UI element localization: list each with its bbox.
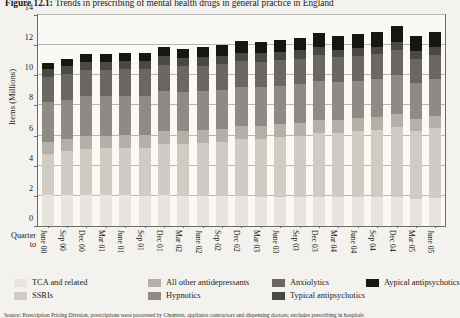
bar-segment-hypnotics bbox=[313, 81, 325, 120]
bar-segment-aypical-antipsychotics bbox=[371, 32, 383, 47]
bar-segment-hypnotics bbox=[42, 102, 54, 141]
bar-segment-typical-antipsychotics bbox=[371, 47, 383, 55]
legend-item-ssris[interactable]: SSRIs bbox=[14, 290, 53, 301]
bar-segment-hypnotics bbox=[255, 87, 267, 125]
bar-segment-ssris bbox=[197, 143, 209, 196]
bar-segment-aypical-antipsychotics bbox=[235, 41, 247, 52]
bar-segment-typical-antipsychotics bbox=[100, 62, 112, 70]
bar-segment-tca-and-related bbox=[80, 195, 92, 226]
bar-segment-anxiolytics bbox=[119, 69, 131, 95]
bar-segment-all-other-antidepressants bbox=[100, 136, 112, 149]
bar-sep-04[interactable] bbox=[371, 15, 383, 226]
bar-segment-hypnotics bbox=[391, 75, 403, 113]
bar-sep-01[interactable] bbox=[139, 15, 151, 226]
bar-segment-typical-antipsychotics bbox=[410, 51, 422, 59]
x-tick-label: Dec 04 bbox=[388, 230, 397, 252]
x-tick-label: Sep 01 bbox=[136, 230, 145, 251]
bar-segment-anxiolytics bbox=[313, 55, 325, 81]
x-tick-june-02: June 02 bbox=[193, 228, 212, 276]
x-tick-label: Mar 05 bbox=[407, 230, 416, 252]
bar-segment-all-other-antidepressants bbox=[139, 135, 151, 148]
bar-sep-03[interactable] bbox=[294, 15, 306, 226]
x-tick-mark bbox=[86, 226, 87, 228]
legend-swatch bbox=[148, 279, 161, 287]
legend-item-typical-antipsychotics[interactable]: Typical antipsychotics bbox=[272, 290, 365, 301]
bar-dec-02[interactable] bbox=[235, 15, 247, 226]
bar-june-00[interactable] bbox=[42, 15, 54, 226]
bar-segment-typical-antipsychotics bbox=[119, 61, 131, 69]
x-axis-title: Quarterto bbox=[0, 231, 36, 249]
x-tick-label: Mar 01 bbox=[97, 230, 106, 252]
bar-segment-hypnotics bbox=[429, 79, 441, 116]
x-tick-label: Sep 00 bbox=[58, 230, 67, 251]
bar-segment-aypical-antipsychotics bbox=[100, 54, 112, 62]
bar-segment-aypical-antipsychotics bbox=[80, 54, 92, 62]
bar-segment-anxiolytics bbox=[61, 74, 73, 100]
bar-segment-hypnotics bbox=[100, 96, 112, 135]
legend-item-anxiolytics[interactable]: Anxiolytics bbox=[272, 277, 329, 288]
bar-segment-tca-and-related bbox=[197, 196, 209, 226]
legend-item-all-other-antidepressants[interactable]: All other antidepressants bbox=[148, 277, 249, 288]
bar-sep-02[interactable] bbox=[216, 15, 228, 226]
bar-segment-anxiolytics bbox=[255, 62, 267, 88]
bar-segment-all-other-antidepressants bbox=[332, 120, 344, 133]
legend-label: Hypnotics bbox=[166, 291, 200, 300]
bar-mar-03[interactable] bbox=[255, 15, 267, 226]
legend-item-aypical-antipsychotics[interactable]: Aypical antipsychotics bbox=[366, 277, 460, 288]
bar-segment-anxiolytics bbox=[177, 66, 189, 92]
bar-segment-ssris bbox=[119, 148, 131, 195]
bar-june-05[interactable] bbox=[429, 15, 441, 226]
bar-june-02[interactable] bbox=[197, 15, 209, 226]
bar-june-03[interactable] bbox=[274, 15, 286, 226]
bar-sep-00[interactable] bbox=[61, 15, 73, 226]
legend-label: TCA and related bbox=[32, 278, 87, 287]
bar-segment-typical-antipsychotics bbox=[80, 62, 92, 70]
x-tick-mark bbox=[435, 226, 436, 228]
bar-segment-all-other-antidepressants bbox=[410, 119, 422, 131]
bar-mar-05[interactable] bbox=[410, 15, 422, 226]
bar-segment-tca-and-related bbox=[139, 196, 151, 226]
x-tick-june-01: June 01 bbox=[116, 228, 135, 276]
x-tick-june-00: June 00 bbox=[38, 228, 57, 276]
bar-segment-anxiolytics bbox=[80, 70, 92, 96]
bar-segment-anxiolytics bbox=[216, 64, 228, 90]
x-tick-label: Dec 02 bbox=[232, 230, 241, 252]
bar-segment-aypical-antipsychotics bbox=[61, 59, 73, 66]
y-tick-mark-10 bbox=[34, 75, 37, 76]
bar-june-04[interactable] bbox=[352, 15, 364, 226]
bar-segment-ssris bbox=[391, 127, 403, 198]
bar-dec-03[interactable] bbox=[313, 15, 325, 226]
bar-segment-aypical-antipsychotics bbox=[255, 42, 267, 53]
bar-segment-all-other-antidepressants bbox=[371, 117, 383, 130]
bar-segment-ssris bbox=[100, 148, 112, 195]
bar-segment-aypical-antipsychotics bbox=[391, 26, 403, 42]
bar-dec-04[interactable] bbox=[391, 15, 403, 226]
legend-item-hypnotics[interactable]: Hypnotics bbox=[148, 290, 200, 301]
x-tick-mark bbox=[67, 226, 68, 228]
bar-segment-hypnotics bbox=[332, 82, 344, 120]
bar-june-01[interactable] bbox=[119, 15, 131, 226]
bar-segment-hypnotics bbox=[197, 91, 209, 130]
bar-segment-typical-antipsychotics bbox=[177, 58, 189, 66]
bar-dec-01[interactable] bbox=[158, 15, 170, 226]
bar-mar-04[interactable] bbox=[332, 15, 344, 226]
bar-segment-aypical-antipsychotics bbox=[42, 63, 54, 69]
bar-segment-tca-and-related bbox=[429, 198, 441, 226]
bar-mar-02[interactable] bbox=[177, 15, 189, 226]
bar-segment-aypical-antipsychotics bbox=[216, 45, 228, 56]
legend-label: Typical antipsychotics bbox=[290, 291, 365, 300]
x-tick-mar-01: Mar 01 bbox=[96, 228, 115, 276]
bar-segment-tca-and-related bbox=[274, 197, 286, 226]
y-axis: 02468101214 bbox=[0, 14, 37, 228]
bar-segment-ssris bbox=[274, 137, 286, 197]
bar-segment-all-other-antidepressants bbox=[294, 123, 306, 136]
x-tick-mark bbox=[338, 226, 339, 228]
bar-mar-01[interactable] bbox=[100, 15, 112, 226]
y-tick-mark-2 bbox=[34, 196, 37, 197]
legend-item-tca-and-related[interactable]: TCA and related bbox=[14, 277, 87, 288]
bar-segment-ssris bbox=[255, 139, 267, 197]
bar-segment-all-other-antidepressants bbox=[313, 120, 325, 133]
bar-dec-00[interactable] bbox=[80, 15, 92, 226]
bar-segment-all-other-antidepressants bbox=[429, 116, 441, 128]
bar-segment-typical-antipsychotics bbox=[61, 66, 73, 74]
